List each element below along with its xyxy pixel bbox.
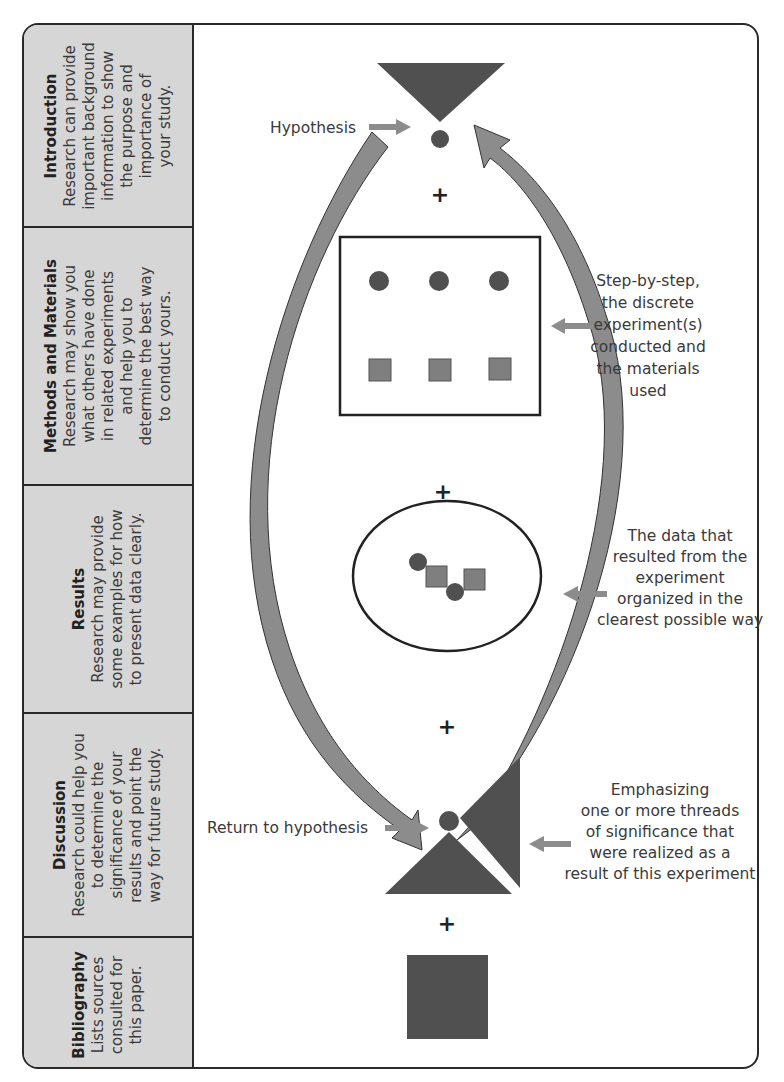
methods-note: Step-by-step, the discrete experiment(s)…: [573, 270, 723, 402]
discussion-note: Emphasizing one or more threads of signi…: [555, 780, 765, 885]
hypothesis-pointer-arrow-icon: [369, 119, 411, 135]
dot-icon: [409, 553, 427, 571]
return-dot-icon: [439, 811, 459, 831]
square-icon: [426, 566, 447, 587]
square-icon: [429, 359, 451, 381]
plus-icon: +: [431, 182, 449, 207]
plus-icon: +: [438, 714, 456, 739]
dot-icon: [446, 583, 464, 601]
hypothesis-dot-icon: [431, 130, 449, 148]
return-label: Return to hypothesis: [207, 818, 368, 838]
plus-icon: +: [438, 911, 456, 936]
methods-box: [340, 237, 540, 415]
right-curved-arrow-icon: [457, 125, 623, 840]
introduction-triangle-icon: [377, 63, 505, 122]
square-icon: [369, 359, 391, 381]
square-icon: [489, 358, 511, 380]
dot-icon: [489, 271, 509, 291]
bibliography-square-icon: [407, 955, 488, 1039]
dot-icon: [429, 271, 449, 291]
hypothesis-label: Hypothesis: [270, 118, 356, 138]
results-note: The data that resulted from the experime…: [590, 526, 770, 631]
dot-icon: [369, 271, 389, 291]
square-icon: [464, 569, 485, 590]
